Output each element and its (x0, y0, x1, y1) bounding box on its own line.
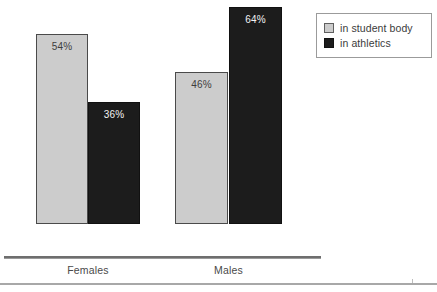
x-axis-group-label-males: Males (175, 264, 282, 277)
light-swatch-icon (324, 23, 334, 33)
legend-item-label: in student body (340, 22, 413, 34)
bar-value-label: 46% (176, 79, 227, 91)
dark-swatch-icon (324, 38, 334, 48)
bar-chart: 54% 36% 46% 64% Females Males in student… (0, 0, 437, 292)
bar-females-student-body: 54% (36, 34, 88, 224)
x-axis-line (4, 256, 321, 259)
divider-tick-mark (412, 279, 413, 283)
page-divider-rule (0, 283, 437, 285)
bar-value-label: 54% (37, 41, 87, 53)
bar-value-label: 64% (230, 14, 281, 26)
bar-females-athletics: 36% (88, 102, 140, 224)
legend-item-athletics: in athletics (324, 36, 423, 50)
legend-item-student-body: in student body (324, 21, 423, 35)
legend-item-label: in athletics (340, 37, 391, 49)
bar-males-student-body: 46% (175, 72, 228, 224)
bar-value-label: 36% (89, 109, 139, 121)
plot-area: 54% 36% 46% 64% Females Males (0, 0, 330, 260)
x-axis-group-label-females: Females (36, 264, 140, 277)
bar-males-athletics: 64% (229, 7, 282, 224)
legend: in student body in athletics (316, 13, 432, 58)
